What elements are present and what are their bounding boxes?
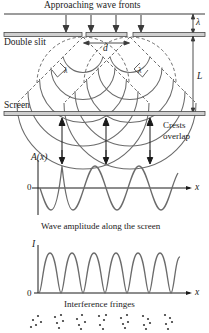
fringe-dot bbox=[149, 322, 151, 324]
wavelength-label-left: λ bbox=[64, 67, 67, 75]
intensity-graph bbox=[34, 245, 192, 295]
distance-to-screen-label: L bbox=[197, 72, 202, 82]
amplitude-axis-label: A(x) bbox=[31, 153, 47, 163]
wavefront-arc bbox=[40, 79, 127, 123]
fringe-dot bbox=[56, 322, 58, 324]
fringe-dot bbox=[76, 318, 78, 320]
amplitude-x-axis-arrowhead bbox=[186, 186, 192, 190]
incoming-arrow-head bbox=[88, 26, 94, 33]
barrier-segment-right bbox=[133, 33, 205, 37]
wavelength-dimension-top bbox=[191, 14, 194, 34]
peak-arrow-head bbox=[147, 158, 152, 165]
fringe-dot bbox=[142, 315, 144, 317]
double-slit-barrier bbox=[4, 33, 205, 37]
fringe-dot bbox=[103, 319, 105, 321]
screen-label: Screen bbox=[4, 101, 30, 111]
fringe-dot bbox=[120, 317, 122, 319]
incoming-arrow-head bbox=[113, 26, 119, 33]
link-arrow-head bbox=[59, 118, 65, 126]
fringe-dot bbox=[62, 320, 64, 322]
double-slit-label: Double slit bbox=[4, 38, 46, 48]
double-slit-interference-figure: Approaching wave fronts λ Double slit d … bbox=[0, 0, 209, 333]
intensity-caption: Interference fringes bbox=[64, 300, 135, 309]
fringe-dot bbox=[80, 328, 82, 330]
peak-arrow-head bbox=[59, 158, 64, 165]
fringe-dot bbox=[143, 324, 145, 326]
incoming-wave-arrows bbox=[63, 15, 144, 32]
fringe-speckle-dots bbox=[30, 314, 173, 330]
wavelength-label-right: λ bbox=[138, 67, 141, 75]
screen-bar bbox=[4, 112, 205, 116]
fringe-dot bbox=[81, 314, 83, 316]
wavelength-label-top: λ bbox=[196, 18, 200, 28]
slit-separation-label: d bbox=[103, 44, 108, 54]
fringe-dot bbox=[164, 314, 166, 316]
slit-separation-arrowhead-left bbox=[84, 41, 90, 45]
wavefront-arc bbox=[87, 79, 174, 123]
wavelength-dim-arrowhead-up bbox=[191, 15, 194, 20]
fringe-dot bbox=[102, 328, 104, 330]
peak-arrow-head bbox=[103, 158, 108, 165]
incoming-arrow-head bbox=[138, 26, 144, 33]
fringe-dot bbox=[99, 324, 101, 326]
intensity-x-axis-label: x bbox=[195, 288, 199, 298]
intensity-zero-label: 0 bbox=[27, 289, 32, 298]
fringe-dot bbox=[58, 327, 60, 329]
fringe-dot bbox=[30, 326, 32, 328]
slit-separation-arrowhead-right bbox=[124, 41, 130, 45]
incoming-arrow-head bbox=[63, 26, 69, 33]
amplitude-graph bbox=[32, 150, 192, 215]
barrier-segment-left bbox=[4, 33, 82, 37]
approaching-wavefront-group bbox=[4, 14, 205, 32]
fringe-dot bbox=[169, 317, 171, 319]
amplitude-caption: Wave amplitude along the screen bbox=[41, 222, 160, 231]
fringe-dot bbox=[105, 314, 107, 316]
fringe-dot bbox=[145, 328, 147, 330]
barrier-segment-middle bbox=[86, 33, 127, 37]
fringe-dot bbox=[35, 324, 37, 326]
approaching-wave-fronts-label: Approaching wave fronts bbox=[44, 1, 141, 11]
fringe-dot bbox=[37, 315, 39, 317]
fringe-dot bbox=[167, 328, 169, 330]
fringe-dot bbox=[171, 321, 173, 323]
crests-overlap-label-line2: overlap bbox=[163, 132, 190, 141]
fringe-dot bbox=[126, 314, 128, 316]
fringe-dot bbox=[84, 321, 86, 323]
intensity-fringe-curve bbox=[39, 253, 180, 293]
fringe-dot bbox=[78, 324, 80, 326]
fringe-dot bbox=[127, 321, 129, 323]
fringe-dot bbox=[165, 323, 167, 325]
amplitude-zero-label: 0 bbox=[27, 183, 32, 192]
fringe-dot bbox=[98, 315, 100, 317]
fringe-dot bbox=[40, 321, 42, 323]
intensity-axis-label: I bbox=[32, 240, 35, 250]
fringe-dot bbox=[122, 323, 124, 325]
fringe-dot bbox=[54, 316, 56, 318]
amplitude-x-axis-label: x bbox=[195, 183, 199, 193]
intensity-x-axis-arrowhead bbox=[186, 291, 192, 295]
fringe-dot bbox=[124, 327, 126, 329]
crests-overlap-label-line1: Crests bbox=[163, 121, 186, 130]
fringe-dot bbox=[60, 314, 62, 316]
fringe-dot bbox=[147, 318, 149, 320]
amplitude-peak-arrows bbox=[59, 150, 152, 164]
dashed-arc-left bbox=[37, 37, 129, 83]
link-arrow-head bbox=[103, 118, 109, 126]
dashed-arc-right bbox=[84, 37, 176, 83]
fringe-dot bbox=[32, 319, 34, 321]
